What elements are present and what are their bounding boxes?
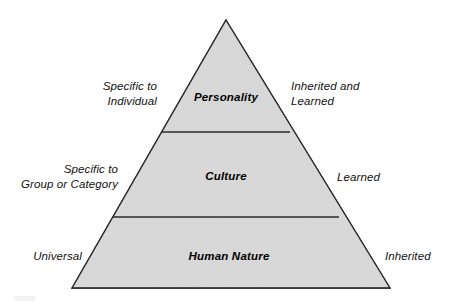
annotation-right-human-nature: Inherited: [385, 249, 431, 264]
annotation-right-personality: Inherited and Learned: [291, 79, 359, 108]
annotation-right-human-nature-line-1: Inherited: [385, 249, 431, 264]
annotation-left-culture-line-1: Specific to: [21, 162, 118, 177]
level-label-human-nature: Human Nature: [189, 250, 270, 262]
level-label-culture: Culture: [205, 170, 247, 182]
level-label-personality: Personality: [194, 91, 258, 103]
annotation-right-personality-line-2: Learned: [291, 93, 359, 108]
annotation-right-culture-line-1: Learned: [337, 170, 380, 185]
scan-artifact: [14, 296, 36, 301]
annotation-right-culture: Learned: [337, 170, 380, 185]
diagram-canvas: Personality Culture Human Nature Specifi…: [0, 0, 450, 307]
annotation-left-personality-line-1: Specific to: [103, 79, 157, 94]
annotation-left-personality: Specific to Individual: [103, 79, 157, 108]
annotation-left-personality-line-2: Individual: [103, 93, 157, 108]
annotation-left-culture: Specific to Group or Category: [21, 162, 118, 191]
annotation-left-human-nature: Universal: [33, 249, 82, 264]
annotation-right-personality-line-1: Inherited and: [291, 79, 359, 94]
annotation-left-culture-line-2: Group or Category: [21, 176, 118, 191]
pyramid-texture-overlay: [72, 20, 390, 288]
annotation-left-human-nature-line-1: Universal: [33, 249, 82, 264]
